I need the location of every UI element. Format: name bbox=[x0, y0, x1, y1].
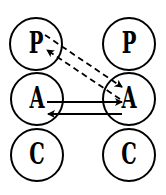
transaction-arrow-right-adult-to-left-parent bbox=[47, 50, 120, 99]
right-adult-label: A bbox=[121, 80, 137, 116]
ego-state-diagram: PACPAC bbox=[0, 0, 166, 195]
transaction-arrows bbox=[45, 35, 122, 114]
right-parent-label: P bbox=[122, 25, 137, 61]
right-child-label: C bbox=[121, 136, 137, 172]
left-child-label: C bbox=[29, 136, 45, 172]
left-parent-label: P bbox=[29, 25, 44, 61]
left-adult-label: A bbox=[29, 80, 45, 116]
ego-state-labels: PACPAC bbox=[29, 25, 137, 172]
